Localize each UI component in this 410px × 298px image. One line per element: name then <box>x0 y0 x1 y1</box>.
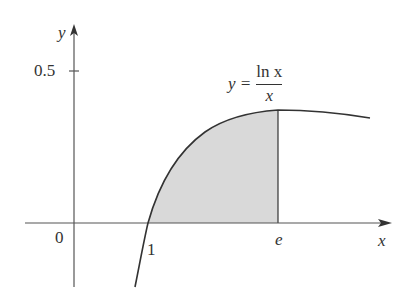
equation-lhs: y = <box>228 74 251 94</box>
plot-canvas <box>0 0 410 298</box>
equation-denominator: x <box>256 86 282 106</box>
y-tick-label-0.5: 0.5 <box>34 62 55 79</box>
fraction: ln x x <box>256 62 282 106</box>
equation-numerator: ln x <box>256 62 282 82</box>
x-axis-label: x <box>378 232 386 249</box>
x-tick-label-e: e <box>275 231 283 248</box>
y-axis-label: y <box>58 24 66 41</box>
origin-label: 0 <box>55 229 64 246</box>
fraction-bar <box>256 84 282 85</box>
function-label: y = ln x x <box>228 62 282 106</box>
x-tick-label-1: 1 <box>147 241 156 258</box>
